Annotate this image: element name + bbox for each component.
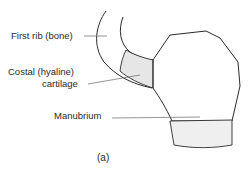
figure-caption: (a) [97,152,109,163]
label-costal-line2: cartilage [42,78,78,89]
manubrium-body [153,31,240,121]
sternum-rib-diagram [0,0,248,186]
label-costal-line1: Costal (hyaline) [8,66,74,77]
manubrium-lower-band [170,120,232,148]
leader-manubrium [112,117,200,118]
label-first-rib: First rib (bone) [11,30,73,41]
label-manubrium: Manubrium [54,110,102,121]
costal-cartilage [120,50,153,88]
